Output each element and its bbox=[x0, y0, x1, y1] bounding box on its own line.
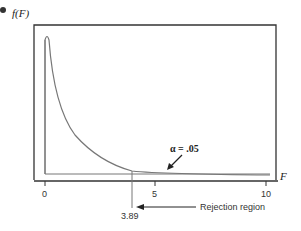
y-axis-label: f(F) bbox=[12, 7, 29, 20]
tick-label-5: 5 bbox=[152, 189, 157, 199]
f-distribution-chart: f(F) 0 5 10 F 3.89 Rejection region α = … bbox=[0, 0, 301, 231]
bullet-dot bbox=[0, 7, 6, 13]
tick-label-10: 10 bbox=[261, 189, 271, 199]
alpha-label: α = .05 bbox=[170, 143, 199, 154]
alpha-arrow bbox=[171, 155, 182, 166]
density-curve bbox=[45, 37, 270, 176]
tick-label-0: 0 bbox=[42, 189, 47, 199]
x-axis-label: F bbox=[279, 170, 287, 182]
critical-value-label: 3.89 bbox=[121, 211, 139, 221]
arrow-head-icon bbox=[136, 204, 144, 210]
plot-frame bbox=[34, 25, 276, 180]
rejection-region-label: Rejection region bbox=[200, 202, 265, 212]
